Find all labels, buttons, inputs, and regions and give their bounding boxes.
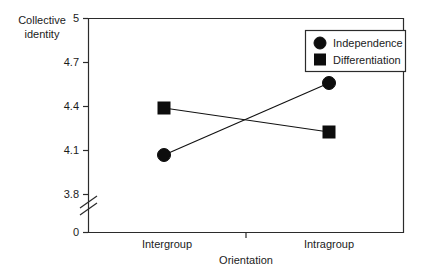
series-independence-line xyxy=(164,83,329,155)
x-tick-label-intergroup: Intergroup xyxy=(142,238,192,250)
y-tick-label-3-8: 3.8 xyxy=(64,188,79,200)
y-tick-label-5: 5 xyxy=(73,12,79,24)
data-point-differentiation-intragroup xyxy=(323,126,335,138)
x-axis-title: Orientation xyxy=(219,254,273,266)
y-axis-label-line2: identity xyxy=(25,28,60,40)
series-differentiation xyxy=(158,102,335,138)
legend-label-independence: Independence xyxy=(333,37,403,49)
y-tick-label-0: 0 xyxy=(73,226,79,238)
chart-legend: Independence Differentiation xyxy=(306,31,406,72)
x-axis-ticks: Intergroup Intragroup xyxy=(142,233,354,251)
y-axis-label-line1: Collective xyxy=(18,14,66,26)
data-point-independence-intragroup xyxy=(323,77,336,90)
y-tick-label-4-1: 4.1 xyxy=(64,144,79,156)
legend-label-differentiation: Differentiation xyxy=(333,54,401,66)
series-differentiation-line xyxy=(164,108,329,132)
y-tick-label-4-7: 4.7 xyxy=(64,56,79,68)
chart-figure: Collective identity 5 4.7 4.4 4.1 3.8 0 xyxy=(0,0,423,272)
data-point-independence-intergroup xyxy=(158,149,171,162)
y-axis-ticks: 5 4.7 4.4 4.1 3.8 0 xyxy=(64,12,88,238)
series-independence xyxy=(158,77,336,162)
line-chart: Collective identity 5 4.7 4.4 4.1 3.8 0 xyxy=(0,0,423,272)
x-tick-label-intragroup: Intragroup xyxy=(304,238,354,250)
legend-marker-circle-icon xyxy=(314,37,326,49)
y-tick-label-4-4: 4.4 xyxy=(64,100,79,112)
legend-marker-square-icon xyxy=(315,54,326,65)
data-point-differentiation-intergroup xyxy=(158,102,170,114)
